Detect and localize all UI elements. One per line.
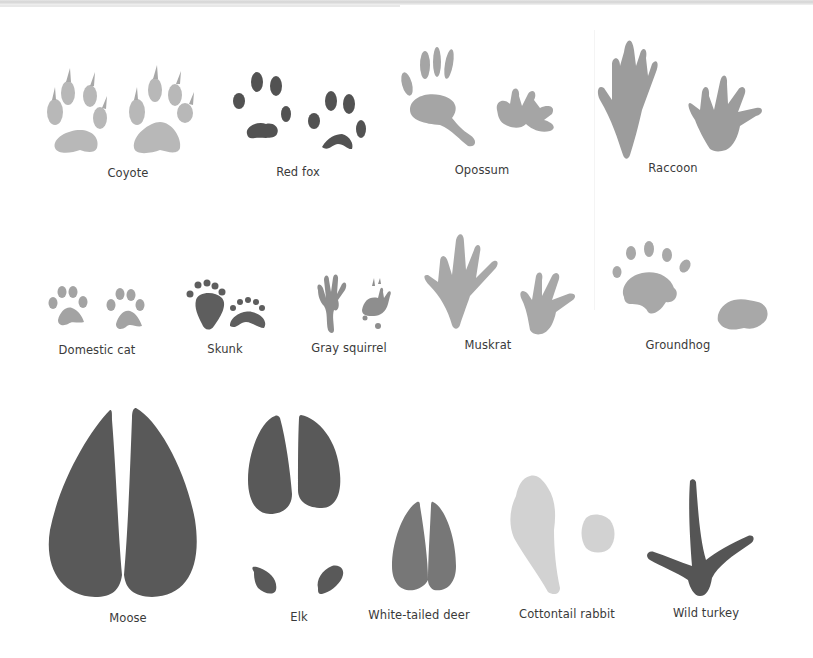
groundhog-track-icon <box>613 241 768 330</box>
label-cottontail-rabbit: Cottontail rabbit <box>519 607 615 621</box>
skunk-track-icon <box>187 280 266 330</box>
cottontail-rabbit-track-icon <box>510 476 614 595</box>
muskrat-track-icon <box>424 234 575 334</box>
label-groundhog: Groundhog <box>646 338 711 352</box>
elk-track-icon <box>248 415 343 594</box>
label-skunk: Skunk <box>207 342 242 356</box>
wild-turkey-track-icon <box>647 479 754 596</box>
label-moose: Moose <box>109 611 147 625</box>
label-white-tailed-deer: White-tailed deer <box>368 608 469 622</box>
tracks-illustration <box>0 0 813 658</box>
label-domestic-cat: Domestic cat <box>59 343 136 357</box>
domestic-cat-track-icon <box>49 286 145 329</box>
raccoon-track-icon <box>598 40 762 158</box>
red-fox-track-icon <box>233 72 366 149</box>
label-coyote: Coyote <box>107 166 148 180</box>
label-muskrat: Muskrat <box>465 338 512 352</box>
label-opossum: Opossum <box>455 163 510 177</box>
label-raccoon: Raccoon <box>648 161 698 175</box>
white-tailed-deer-track-icon <box>392 502 456 591</box>
label-gray-squirrel: Gray squirrel <box>311 341 387 355</box>
gray-squirrel-track-icon <box>317 274 390 333</box>
moose-track-icon <box>49 408 197 597</box>
label-elk: Elk <box>290 610 307 624</box>
label-red-fox: Red fox <box>276 165 320 179</box>
opossum-track-icon <box>399 47 554 146</box>
label-wild-turkey: Wild turkey <box>673 606 739 620</box>
coyote-track-icon <box>47 65 194 153</box>
